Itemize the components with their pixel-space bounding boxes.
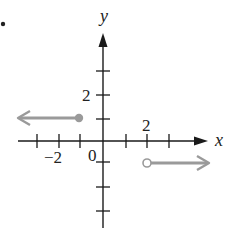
y-axis-label: y bbox=[98, 6, 108, 26]
x-axis-label: x bbox=[214, 130, 223, 150]
graph-canvas: y x 2 2 −2 0 bbox=[0, 0, 231, 235]
bullet-marker bbox=[1, 22, 5, 26]
x-axis-arrow-icon bbox=[194, 137, 208, 146]
left-ray bbox=[18, 111, 83, 125]
closed-dot bbox=[75, 114, 83, 122]
x-tick-label-neg2: −2 bbox=[44, 148, 62, 167]
y-tick-label-2: 2 bbox=[82, 86, 91, 105]
x-tick-label-2: 2 bbox=[142, 116, 151, 135]
right-ray bbox=[143, 156, 209, 170]
origin-label: 0 bbox=[88, 146, 97, 165]
y-axis-arrow-icon bbox=[99, 33, 108, 47]
open-dot bbox=[143, 159, 151, 167]
